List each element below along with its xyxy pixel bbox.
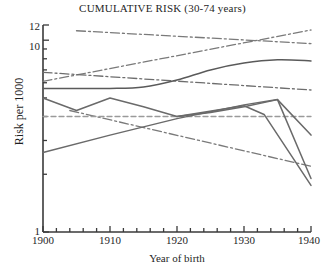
y-axis-ticks — [43, 25, 49, 232]
series-trend-lower-declining — [70, 110, 311, 166]
series-trend-upper-declining — [77, 31, 312, 44]
series-trend-mid-declining — [43, 72, 311, 90]
chart-figure: CUMULATIVE RISK (30-74 years) Risk per 1… — [0, 0, 325, 268]
data-series-group — [43, 30, 311, 185]
x-axis-ticks — [43, 226, 311, 232]
plot-area — [0, 0, 325, 268]
series-series-rising-then-falling — [43, 100, 311, 179]
series-trend-rising — [43, 30, 311, 81]
series-series-steep-decline — [177, 106, 311, 186]
